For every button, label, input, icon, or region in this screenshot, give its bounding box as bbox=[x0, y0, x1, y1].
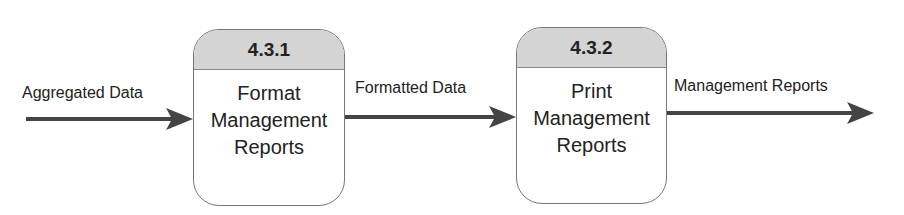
arrow-formatted-data bbox=[344, 106, 516, 128]
flow-label-aggregated-data: Aggregated Data bbox=[22, 84, 143, 102]
process-id: 4.3.2 bbox=[517, 28, 666, 68]
process-name-line: Reports bbox=[194, 134, 344, 161]
arrow-management-reports bbox=[666, 102, 874, 124]
process-name-line: Management bbox=[194, 107, 344, 134]
process-name-line: Format bbox=[194, 80, 344, 107]
process-4-3-1: 4.3.1 Format Management Reports bbox=[193, 29, 345, 206]
arrow-aggregated-data bbox=[26, 108, 193, 130]
process-id: 4.3.1 bbox=[194, 30, 344, 70]
process-name-line: Print bbox=[517, 78, 666, 105]
process-name: Print Management Reports bbox=[517, 68, 666, 159]
flow-label-management-reports: Management Reports bbox=[674, 77, 828, 95]
process-name-line: Reports bbox=[517, 132, 666, 159]
process-4-3-2: 4.3.2 Print Management Reports bbox=[516, 27, 667, 204]
process-name-line: Management bbox=[517, 105, 666, 132]
flow-label-formatted-data: Formatted Data bbox=[355, 79, 466, 97]
flow-arrows bbox=[0, 0, 904, 215]
process-name: Format Management Reports bbox=[194, 70, 344, 161]
